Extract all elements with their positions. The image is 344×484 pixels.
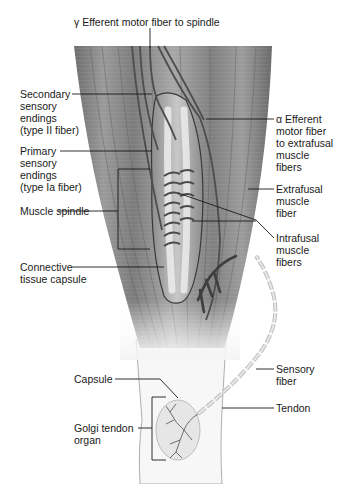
label-intrafusal-fibers: Intrafusal muscle fibers (276, 232, 319, 268)
label-capsule: Capsule (74, 373, 113, 385)
label-muscle-spindle: Muscle spindle (20, 205, 89, 217)
label-alpha-efferent: α Efferent motor fiber to extrafusal mus… (276, 113, 333, 173)
label-golgi-tendon-organ: Golgi tendon organ (74, 422, 134, 446)
label-extrafusal-fiber: Extrafusal muscle fiber (276, 183, 323, 219)
spindle-capsule (152, 93, 203, 303)
label-secondary-endings: Secondary sensory endings (type II fiber… (20, 88, 79, 136)
golgi-tendon-organ-capsule (156, 400, 200, 460)
label-primary-endings: Primary sensory endings (type Ia fiber) (20, 145, 82, 193)
label-tendon: Tendon (276, 402, 310, 414)
label-connective-tissue-capsule: Connective tissue capsule (20, 261, 87, 285)
label-gamma-efferent: γ Efferent motor fiber to spindle (74, 16, 220, 28)
label-sensory-fiber: Sensory fiber (276, 363, 315, 387)
